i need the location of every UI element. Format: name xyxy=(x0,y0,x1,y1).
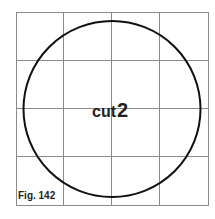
figure-caption: Fig. 142 xyxy=(18,190,56,201)
center-label-word: cut xyxy=(92,103,117,120)
center-label-number: 2 xyxy=(117,99,128,121)
center-label: cut2 xyxy=(92,99,128,121)
diagram: cut2 Fig. 142 xyxy=(0,0,215,219)
